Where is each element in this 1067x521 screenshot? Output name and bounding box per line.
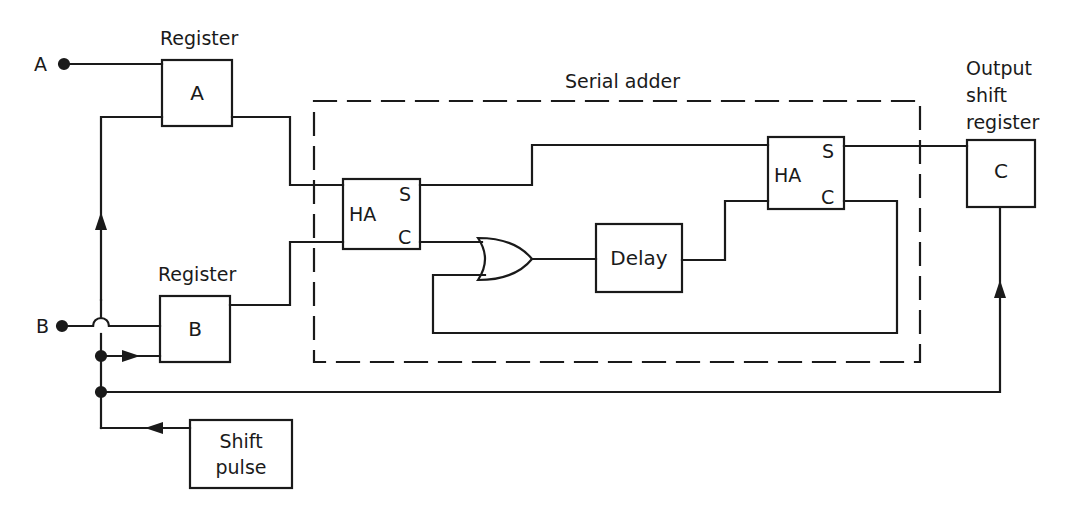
ha2-label: HA — [774, 164, 801, 186]
arrow-up-icon — [994, 280, 1006, 298]
serial-adder-diagram — [0, 0, 1067, 521]
ha2-sum-port: S — [822, 140, 834, 162]
shift-pulse-label-2: pulse — [190, 456, 292, 478]
delay-label: Delay — [596, 224, 682, 292]
output-register-caption-1: Output — [966, 57, 1032, 79]
output-register-caption-3: register — [966, 111, 1039, 133]
register-a-caption: Register — [160, 27, 238, 49]
arrow-up-icon — [95, 212, 107, 230]
wire-b-to-ha1 — [230, 242, 343, 305]
arrow-right-icon — [122, 350, 140, 362]
wire-ha1-sum-to-ha2 — [420, 145, 768, 185]
ha1-label: HA — [349, 203, 376, 225]
shift-pulse-label-1: Shift — [190, 430, 292, 452]
junction-dot — [96, 387, 106, 397]
register-b-label: B — [160, 296, 230, 362]
input-a-label: A — [34, 53, 47, 75]
input-b-label: B — [36, 315, 49, 337]
or-gate — [478, 238, 532, 280]
register-b-caption: Register — [158, 263, 236, 285]
serial-adder-caption: Serial adder — [565, 70, 680, 92]
junction-dot — [96, 351, 106, 361]
output-register-label: C — [967, 140, 1035, 202]
wire-delay-to-ha2 — [682, 201, 768, 260]
wire-a-to-ha1 — [232, 117, 343, 185]
ha2-carry-port: C — [821, 186, 834, 208]
ha1-sum-port: S — [399, 183, 411, 205]
ha1-carry-port: C — [398, 226, 411, 248]
wire-clock-to-a — [101, 117, 162, 300]
output-register-caption-2: shift — [966, 84, 1007, 106]
register-a-label: A — [162, 60, 232, 126]
arrow-left-icon — [145, 422, 163, 434]
wire-clock-to-c — [101, 207, 1000, 392]
